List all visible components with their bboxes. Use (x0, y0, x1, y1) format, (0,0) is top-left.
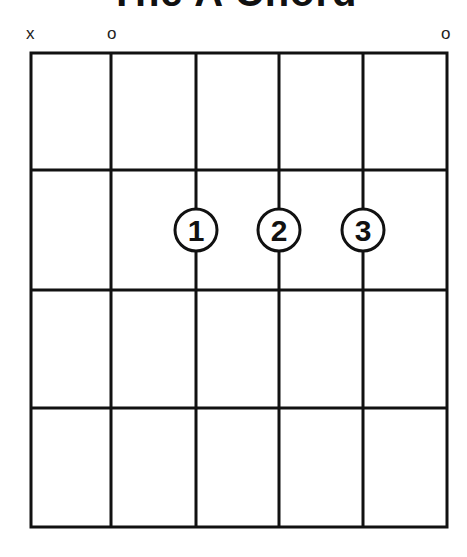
finger-dot-3: 3 (342, 209, 384, 251)
chord-diagram: 1 2 3 (0, 0, 467, 557)
fretboard-grid (31, 53, 447, 527)
finger-dot-1: 1 (175, 209, 217, 251)
finger-label: 1 (188, 214, 205, 247)
finger-label: 2 (271, 214, 288, 247)
finger-label: 3 (355, 214, 372, 247)
finger-dot-2: 2 (258, 209, 300, 251)
